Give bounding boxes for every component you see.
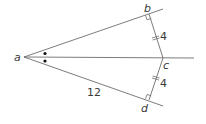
- geometry-diagram: a b c d 4 4 12: [0, 0, 206, 124]
- point-label-d: d: [141, 102, 149, 115]
- angle-mark-dot-lower: [43, 59, 46, 62]
- point-label-b: b: [144, 2, 151, 15]
- hash-mark-bc-2: [153, 38, 160, 40]
- point-label-c: c: [163, 59, 169, 72]
- length-label-bc: 4: [160, 30, 167, 43]
- ray-upper: [24, 9, 163, 57]
- hash-mark-bc-1: [152, 36, 159, 38]
- length-label-cd: 4: [160, 77, 167, 90]
- ray-bisector: [24, 57, 194, 58]
- angle-mark-dot-upper: [43, 52, 46, 55]
- point-label-a: a: [14, 51, 21, 64]
- length-label-ad: 12: [87, 86, 101, 99]
